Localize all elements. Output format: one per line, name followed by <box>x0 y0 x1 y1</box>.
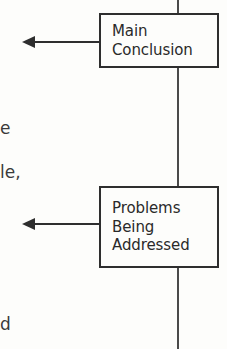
node-label-line: Main <box>112 22 217 41</box>
margin-text-fragment-upper: e <box>0 120 10 137</box>
flowchart-node-main-conclusion: Main Conclusion <box>99 13 219 68</box>
figure-canvas: Main Conclusion Problems Being Addressed… <box>0 0 227 349</box>
margin-text-fragment-middle: le, <box>0 164 21 181</box>
margin-text-fragment-lower: d <box>0 316 11 333</box>
flowchart-node-problems-being-addressed: Problems Being Addressed <box>99 186 219 268</box>
arrow-shaft <box>33 223 99 225</box>
node-label-line: Conclusion <box>112 41 217 60</box>
arrow-from-problems-being-addressed <box>22 218 99 230</box>
node-label-line: Problems <box>112 199 217 218</box>
node-label-line: Being <box>112 218 217 237</box>
node-label-line: Addressed <box>112 236 217 255</box>
arrow-from-main-conclusion <box>22 36 99 48</box>
arrow-shaft <box>33 41 99 43</box>
